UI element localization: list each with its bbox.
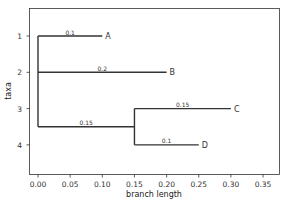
- x-tick-label: 0.30: [223, 180, 240, 189]
- leaf-label: D: [202, 141, 208, 150]
- x-tick-label: 0.25: [190, 180, 207, 189]
- leaf-label: B: [170, 68, 176, 77]
- branch-length-label: 0.15: [80, 119, 94, 126]
- x-tick-label: 0.10: [94, 180, 111, 189]
- x-tick-label: 0.35: [255, 180, 272, 189]
- x-tick-label: 0.00: [30, 180, 47, 189]
- x-tick-label: 0.05: [62, 180, 79, 189]
- leaf-label: C: [234, 105, 240, 114]
- phylogenetic-tree-chart: 0.000.050.100.150.200.250.300.35 1234 0.…: [0, 0, 288, 206]
- x-tick-label: 0.15: [126, 180, 143, 189]
- y-tick-label: 3: [17, 105, 22, 114]
- y-tick-label: 4: [17, 141, 22, 150]
- branch-length-label: 0.2: [98, 65, 108, 72]
- branch-length-label: 0.1: [65, 29, 75, 36]
- branch-length-label: 0.15: [176, 101, 190, 108]
- x-axis-ticks: 0.000.050.100.150.200.250.300.35: [30, 175, 272, 190]
- x-tick-label: 0.20: [158, 180, 175, 189]
- y-axis-label: taxa: [4, 82, 13, 100]
- x-axis-label: branch length: [126, 190, 182, 199]
- y-axis-ticks: 1234: [17, 32, 29, 150]
- leaf-label: A: [105, 32, 111, 41]
- y-tick-label: 1: [17, 32, 22, 41]
- y-tick-label: 2: [17, 68, 22, 77]
- branch-length-label: 0.1: [162, 137, 172, 144]
